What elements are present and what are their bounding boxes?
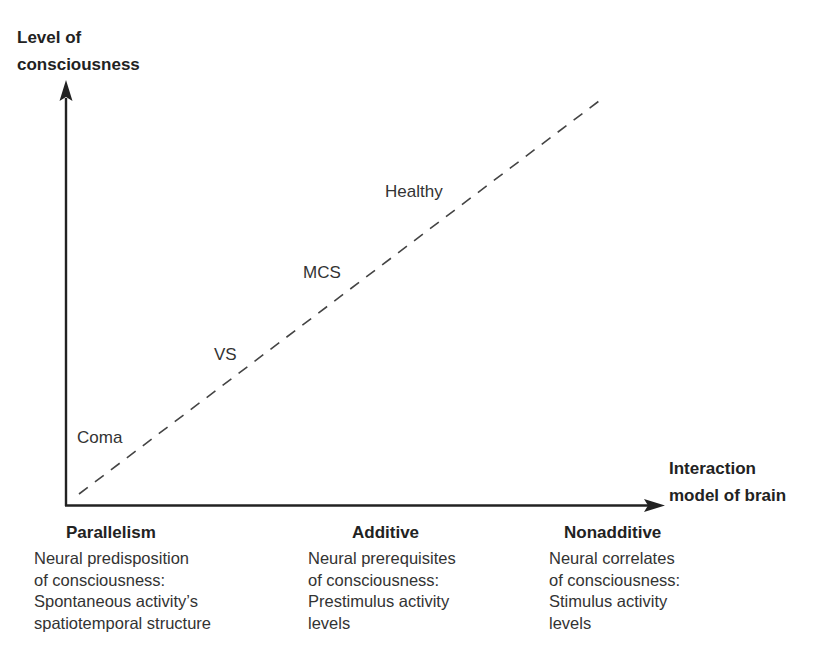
y-axis-title-line-1: Level of (17, 24, 140, 51)
model-desc-line: Neural correlates (549, 548, 680, 570)
model-title-additive: Additive (352, 523, 456, 543)
model-desc-line: levels (308, 613, 456, 635)
model-title-nonadditive: Nonadditive (564, 523, 680, 543)
model-desc-line: of consciousness: (308, 570, 456, 592)
model-desc-additive: Neural prerequisites of consciousness: P… (308, 548, 456, 634)
model-desc-line: of consciousness: (34, 570, 211, 592)
point-label-mcs: MCS (303, 263, 341, 283)
x-axis-title-line-1: Interaction (669, 455, 786, 482)
dashed-trend-line (79, 98, 603, 494)
model-desc-nonadditive: Neural correlates of consciousness: Stim… (549, 548, 680, 634)
y-axis-title: Level of consciousness (17, 24, 140, 78)
x-axis-title-line-2: model of brain (669, 482, 786, 509)
model-column-additive: Additive Neural prerequisites of conscio… (308, 523, 456, 634)
model-desc-line: spatiotemporal structure (34, 613, 211, 635)
model-column-nonadditive: Nonadditive Neural correlates of conscio… (549, 523, 680, 634)
point-label-vs: VS (214, 345, 237, 365)
model-column-parallelism: Parallelism Neural predisposition of con… (34, 523, 211, 634)
point-label-coma: Coma (77, 428, 122, 448)
x-axis-title: Interaction model of brain (669, 455, 786, 509)
model-desc-parallelism: Neural predisposition of consciousness: … (34, 548, 211, 634)
model-desc-line: of consciousness: (549, 570, 680, 592)
point-label-healthy: Healthy (385, 182, 443, 202)
model-desc-line: Stimulus activity (549, 591, 680, 613)
model-title-parallelism: Parallelism (66, 523, 211, 543)
model-desc-line: Neural predisposition (34, 548, 211, 570)
y-axis-title-line-2: consciousness (17, 51, 140, 78)
model-desc-line: Prestimulus activity (308, 591, 456, 613)
model-desc-line: levels (549, 613, 680, 635)
model-desc-line: Spontaneous activity’s (34, 591, 211, 613)
y-axis-arrowhead-icon (60, 80, 73, 101)
model-desc-line: Neural prerequisites (308, 548, 456, 570)
